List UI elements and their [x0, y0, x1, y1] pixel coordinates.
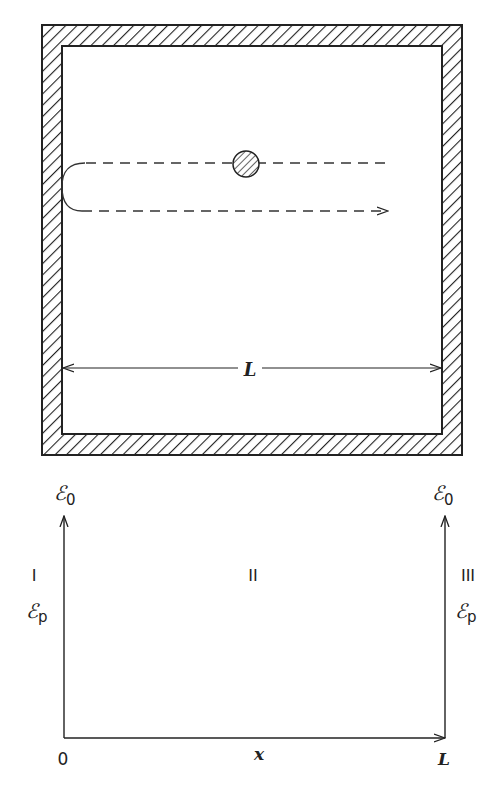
x-axis-end-label: L — [437, 749, 450, 769]
x-axis-variable-label: x — [253, 744, 265, 764]
left-mid-label: ℰp — [26, 599, 48, 626]
dimension-label: L — [243, 359, 257, 380]
region-label-2: II — [248, 566, 257, 585]
right-mid-label: ℰp — [455, 599, 477, 626]
left-top-label: ℰ0 — [54, 481, 76, 509]
region-label-1: I — [32, 566, 37, 585]
x-axis-origin-label: 0 — [58, 749, 69, 769]
region-label-3: III — [461, 566, 475, 585]
box-diagram: L — [42, 25, 462, 455]
trajectory-reflection — [62, 163, 85, 211]
potential-diagram: ℰ0 ℰ0 I II III ℰp ℰp 0 x L — [26, 481, 477, 769]
particle — [233, 151, 259, 177]
right-top-label: ℰ0 — [432, 481, 454, 509]
figure-canvas: L ℰ0 ℰ0 I II III ℰp ℰp 0 x L — [0, 0, 499, 795]
hatched-wall — [42, 25, 462, 455]
